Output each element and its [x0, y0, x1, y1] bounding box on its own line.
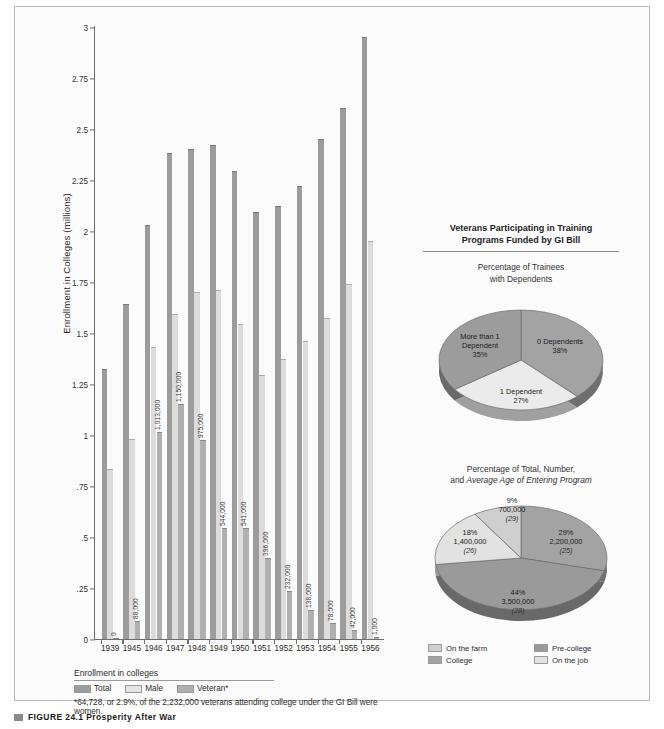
bar-veteran	[265, 558, 271, 639]
bar-group: 0	[100, 27, 122, 639]
bar-veteran	[374, 637, 380, 638]
bar-veteran	[287, 591, 293, 638]
pie1-label-value: 38%	[537, 346, 583, 355]
bar-group: 541,000	[230, 27, 252, 639]
x-axis-tick-label: 1951	[253, 644, 271, 653]
pie2-legend-swatch	[534, 656, 548, 664]
bar-male	[324, 318, 330, 638]
bar-veteran	[308, 610, 314, 638]
bar-male	[238, 324, 244, 638]
pie1-label: More than 1Dependent35%	[460, 332, 499, 360]
bar-group: 138,000	[295, 27, 317, 639]
bar-male	[172, 314, 178, 638]
bar-male	[281, 359, 287, 638]
x-axis-tick-label: 1939	[101, 644, 119, 653]
legend-label-total: Total	[94, 684, 111, 693]
pie2-legend-label: Pre-college	[552, 644, 591, 653]
x-axis-tick-mark	[166, 640, 167, 644]
bar-group: 396,000	[252, 27, 274, 639]
right-panel-heading: Veterans Participating in Training Progr…	[408, 222, 634, 246]
pie1-caption-line2: with Dependents	[408, 274, 634, 285]
x-axis-tick-mark	[252, 640, 253, 644]
x-axis-tick-label: 1953	[296, 644, 314, 653]
bar-total	[340, 108, 346, 638]
veteran-value-label: 541,000	[240, 502, 247, 527]
pie2-legend-item: On the farm	[428, 644, 526, 653]
bar-veteran	[352, 630, 358, 639]
x-axis-tick-label: 1952	[275, 644, 293, 653]
legend-title: Enrollment in colleges	[74, 668, 394, 678]
bar-veteran	[178, 404, 184, 639]
x-axis-tick-mark	[231, 640, 232, 644]
y-axis-tick-label: 3	[54, 24, 88, 33]
x-axis-tick-mark	[209, 640, 210, 644]
bar-veteran	[243, 528, 249, 638]
pie2-caption: Percentage of Total, Number, and Average…	[408, 464, 634, 487]
pie2-label-percent: 9%	[499, 496, 526, 505]
pie2-label: 9%700,000(29)	[499, 496, 526, 524]
x-axis-tick-mark	[318, 640, 319, 644]
pie1-caption: Percentage of Trainees with Dependents	[408, 262, 634, 285]
x-axis-line	[94, 639, 384, 640]
x-axis-tick-mark	[122, 640, 123, 644]
x-axis-tick-label: 1954	[318, 644, 336, 653]
pie2-legend: On the farmPre-collegeCollegeOn the job	[408, 644, 634, 665]
bar-male	[107, 469, 113, 638]
veteran-value-label: 78,000	[327, 600, 334, 621]
bar-total	[167, 153, 173, 639]
pie2-label: 44%3,500,000(28)	[502, 588, 535, 616]
veteran-value-label: 1,013,000	[154, 400, 161, 430]
pie2-legend-swatch	[534, 644, 548, 652]
pie2-legend-label: On the farm	[446, 644, 487, 653]
bar-total	[253, 212, 259, 638]
pie2-legend-item: On the job	[534, 656, 632, 665]
x-axis-tick-mark	[144, 640, 145, 644]
x-axis-tick-mark	[339, 640, 340, 644]
right-panel: Veterans Participating in Training Progr…	[408, 222, 634, 665]
bar-male	[259, 375, 265, 638]
x-axis-tick-label: 1948	[188, 644, 206, 653]
pie2-label-number: 2,200,000	[550, 537, 583, 546]
bar-male	[151, 347, 157, 639]
veteran-value-label: 0	[110, 632, 117, 636]
bar-veteran	[200, 440, 206, 639]
pie2-label-number: 1,400,000	[454, 537, 487, 546]
figure-root: Enrollment in Colleges (millions) 0.25.5…	[0, 0, 664, 729]
pie1-label-name: More than 1	[460, 332, 499, 341]
bar-total	[123, 304, 129, 639]
pie1-label-name: 1 Dependent	[500, 387, 542, 396]
bar-veteran	[330, 623, 336, 639]
bar-group: 88,000	[122, 27, 144, 639]
bar-total	[318, 139, 324, 639]
y-axis-tick-label: 1.75	[54, 279, 88, 288]
y-axis-tick-mark	[90, 129, 95, 130]
y-axis-tick-mark	[90, 282, 95, 283]
bar-total	[210, 145, 216, 639]
pie2-label-age: (25)	[559, 546, 572, 555]
bar-group: 975,000	[187, 27, 209, 639]
pie1-caption-line1: Percentage of Trainees	[408, 262, 634, 273]
y-axis-title: Enrollment in Colleges (millions)	[61, 154, 72, 374]
y-axis-tick-label: 1	[54, 432, 88, 441]
bar-plot-area: 0.25.5.7511.251.51.7522.252.52.753019398…	[94, 26, 384, 640]
pie2-label-percent: 44%	[502, 588, 535, 597]
pie1-svg	[408, 288, 634, 438]
figure-caption: FIGURE 24.1 Prosperity After War	[14, 712, 176, 722]
legend-item-total: Total	[74, 684, 111, 693]
x-axis-tick-label: 1949	[209, 644, 227, 653]
pie2-label-percent: 18%	[454, 528, 487, 537]
pie2-legend-label: On the job	[552, 656, 588, 665]
bar-total	[102, 369, 108, 638]
y-axis-tick-mark	[90, 537, 95, 538]
bar-male	[368, 241, 374, 639]
pie2-caption-line2-plain: and	[450, 475, 466, 485]
veteran-value-label: 1,150,000	[175, 372, 182, 402]
legend-swatch-veteran	[177, 685, 194, 693]
y-axis-tick-label: 0	[54, 636, 88, 645]
x-axis-tick-mark	[296, 640, 297, 644]
bar-veteran	[222, 528, 228, 639]
bar-male	[346, 284, 352, 639]
y-axis-tick-label: 1.5	[54, 330, 88, 339]
y-axis-tick-label: 2	[54, 228, 88, 237]
caption-marker-icon	[14, 714, 23, 721]
